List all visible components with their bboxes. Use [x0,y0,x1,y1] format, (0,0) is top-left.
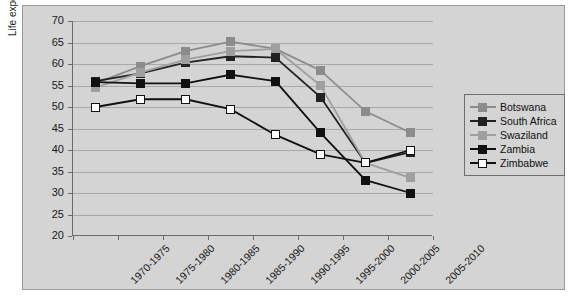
y-tick-mark [68,107,72,108]
y-axis-label: Life expectancy at birth (years) [7,0,18,36]
data-point-marker [226,47,235,56]
data-point-marker [406,189,415,198]
chart-legend: BotswanaSouth AfricaSwazilandZambiaZimba… [464,94,565,176]
y-tick-label: 65 [38,37,64,48]
legend-marker [478,117,487,126]
x-tick-mark [163,236,164,240]
y-tick-label: 25 [38,209,64,220]
legend-label: Swaziland [500,130,548,141]
x-tick-label: 1990-1995 [307,242,351,286]
y-tick-mark [68,129,72,130]
y-tick-label: 60 [38,58,64,69]
x-tick-label: 1995-2000 [352,242,396,286]
data-point-marker [406,128,415,137]
data-point-marker [271,44,280,53]
data-point-marker [316,150,325,159]
x-tick-mark [433,236,434,240]
legend-marker [478,145,487,154]
chart-figure: Life expectancy at birth (years) 7065605… [22,5,565,290]
data-point-marker [361,176,370,185]
legend-label: Zimbabwe [500,158,548,169]
data-point-marker [136,95,145,104]
x-tick-mark [253,236,254,240]
legend-swatch [470,143,496,155]
data-point-marker [271,53,280,62]
data-point-marker [316,81,325,90]
x-tick-mark [298,236,299,240]
data-point-marker [181,79,190,88]
legend-swatch [470,115,496,127]
data-point-marker [316,128,325,137]
y-tick-label: 20 [38,230,64,241]
data-point-marker [181,55,190,64]
legend-swatch [470,129,496,141]
data-point-marker [406,173,415,182]
y-tick-mark [68,172,72,173]
data-point-marker [271,77,280,86]
y-tick-mark [68,43,72,44]
legend-item: Zimbabwe [470,156,557,170]
y-tick-mark [68,21,72,22]
series-layer [73,21,433,236]
y-tick-mark [68,236,72,237]
y-tick-mark [68,86,72,87]
y-tick-label: 35 [38,166,64,177]
data-point-marker [316,66,325,75]
y-tick-label: 40 [38,144,64,155]
y-tick-mark [68,64,72,65]
data-point-marker [226,70,235,79]
data-point-marker [361,107,370,116]
x-tick-label: 2000-2005 [397,242,441,286]
y-tick-label: 55 [38,80,64,91]
data-point-marker [271,130,280,139]
legend-marker [478,159,487,168]
legend-marker [478,131,487,140]
data-point-marker [91,78,100,87]
x-tick-label: 1975-1980 [172,242,216,286]
x-tick-mark [73,236,74,240]
y-tick-label: 45 [38,123,64,134]
y-tick-mark [68,150,72,151]
plot-area [72,21,432,236]
data-point-marker [226,37,235,46]
legend-label: Zambia [500,144,535,155]
y-tick-label: 30 [38,187,64,198]
x-tick-mark [388,236,389,240]
data-point-marker [316,93,325,102]
x-tick-mark [343,236,344,240]
data-point-marker [361,158,370,167]
legend-item: Zambia [470,142,557,156]
legend-label: Botswana [500,102,546,113]
data-point-marker [91,103,100,112]
x-tick-label: 1970-1975 [127,242,171,286]
data-point-marker [181,95,190,104]
y-tick-mark [68,193,72,194]
x-tick-mark [208,236,209,240]
y-tick-label: 50 [38,101,64,112]
legend-marker [478,103,487,112]
data-point-marker [136,79,145,88]
y-tick-mark [68,215,72,216]
x-tick-label: 2005-2010 [442,242,486,286]
legend-item: Swaziland [470,128,557,142]
data-point-marker [406,146,415,155]
x-tick-label: 1985-1990 [262,242,306,286]
data-point-marker [226,105,235,114]
legend-swatch [470,101,496,113]
x-tick-mark [118,236,119,240]
y-tick-label: 70 [38,15,64,26]
legend-label: South Africa [500,116,557,127]
legend-item: South Africa [470,114,557,128]
data-point-marker [136,68,145,77]
x-tick-label: 1980-1985 [217,242,261,286]
legend-item: Botswana [470,100,557,114]
legend-swatch [470,157,496,169]
